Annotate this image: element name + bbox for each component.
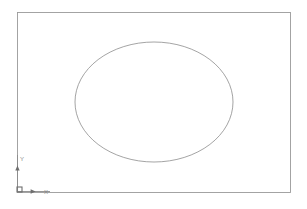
ucs-y-axis-label: Y — [20, 156, 24, 162]
ucs-x-axis-label: X — [44, 189, 48, 195]
drawing-border-rectangle[interactable] — [18, 13, 291, 193]
ucs-coordinate-icon[interactable]: Y X — [15, 155, 50, 195]
drawing-canvas[interactable]: Y X — [0, 0, 307, 209]
ellipse-entity[interactable] — [75, 42, 233, 162]
ucs-x-axis-arrow-icon — [31, 189, 36, 193]
cad-drawing-viewport[interactable]: Y X — [0, 0, 307, 209]
ucs-y-axis-arrow-icon — [15, 165, 19, 170]
